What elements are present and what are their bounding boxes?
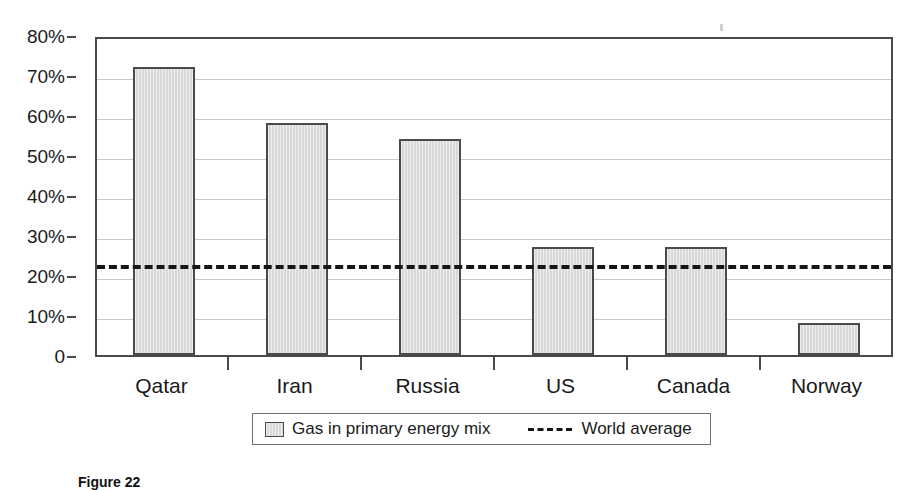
x-tick-mark — [626, 357, 628, 370]
x-tick-label-canada: Canada — [657, 374, 731, 398]
gridline — [97, 239, 891, 240]
x-tick-label-iran: Iran — [276, 374, 312, 398]
y-tick-label: 70% — [27, 66, 65, 88]
x-axis-labels: QatarIranRussiaUSCanadaNorway — [95, 374, 893, 402]
gridline — [97, 319, 891, 320]
y-tick-mark — [67, 116, 76, 118]
x-tick-mark — [227, 357, 229, 370]
x-tick-mark — [360, 357, 362, 370]
chart-legend: Gas in primary energy mix World average — [252, 413, 711, 445]
y-tick-label: 10% — [27, 306, 65, 328]
bar-russia — [399, 139, 461, 355]
gridline — [97, 279, 891, 280]
y-tick-mark — [67, 36, 76, 38]
x-tick-label-us: US — [546, 374, 575, 398]
legend-entry-world-average: World average — [528, 419, 691, 439]
y-tick-mark — [67, 156, 76, 158]
y-tick-label: 50% — [27, 146, 65, 168]
gridline — [97, 79, 891, 80]
bar-qatar — [133, 67, 195, 355]
legend-label-average: World average — [581, 419, 691, 439]
x-axis-ticks — [95, 357, 893, 371]
x-tick-label-qatar: Qatar — [135, 374, 188, 398]
bar-us — [532, 247, 594, 355]
y-tick-mark — [67, 236, 76, 238]
legend-label-bars: Gas in primary energy mix — [292, 419, 490, 439]
legend-swatch-icon — [265, 422, 284, 437]
gridline — [97, 159, 891, 160]
legend-entry-gas-in-primary-energy-mix: Gas in primary energy mix — [265, 419, 490, 439]
gridline — [97, 119, 891, 120]
bar-iran — [266, 123, 328, 355]
plot-area — [95, 37, 893, 357]
scan-artifact-speck — [720, 24, 723, 31]
y-tick-mark — [67, 316, 76, 318]
y-tick-mark — [67, 196, 76, 198]
gridline — [97, 199, 891, 200]
y-tick-mark — [67, 76, 76, 78]
x-tick-mark — [759, 357, 761, 370]
y-tick-label: 40% — [27, 186, 65, 208]
y-tick-label: 20% — [27, 266, 65, 288]
bar-canada — [665, 247, 727, 355]
x-tick-label-russia: Russia — [395, 374, 459, 398]
y-axis: 010%20%30%40%50%60%70%80% — [0, 0, 95, 400]
bar-norway — [798, 323, 860, 355]
figure-caption: Figure 22 — [78, 474, 140, 490]
legend-dashed-line-icon — [528, 428, 572, 431]
x-tick-mark — [493, 357, 495, 370]
y-tick-label: 60% — [27, 106, 65, 128]
x-tick-label-norway: Norway — [791, 374, 862, 398]
y-tick-label: 30% — [27, 226, 65, 248]
y-tick-label: 80% — [27, 26, 65, 48]
y-tick-mark — [67, 276, 76, 278]
world-average-line — [97, 265, 891, 269]
y-tick-mark — [67, 356, 76, 358]
y-tick-label: 0 — [54, 346, 65, 368]
